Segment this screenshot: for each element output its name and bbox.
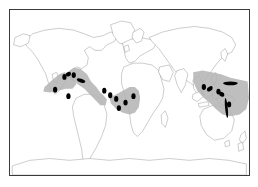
locality-point-3 <box>62 74 66 80</box>
locality-point-11 <box>202 84 206 90</box>
landmass-madagascar <box>161 111 168 128</box>
locality-point-4 <box>72 72 76 78</box>
locality-point-7 <box>114 96 118 102</box>
landmass-antarctica <box>13 159 247 176</box>
distribution-map-figure <box>0 0 258 187</box>
landmass-new-zealand <box>240 131 247 144</box>
locality-point-1 <box>53 87 57 93</box>
locality-point-2 <box>66 93 70 99</box>
locality-point-5 <box>102 88 106 94</box>
locality-point-12 <box>216 89 220 95</box>
locality-point-8 <box>117 105 121 111</box>
world-map <box>10 10 249 175</box>
landmass-india <box>175 69 188 93</box>
landmass-java <box>199 102 210 108</box>
locality-point-10 <box>131 93 135 99</box>
landmass-tasmania <box>225 140 230 146</box>
locality-point-9 <box>123 100 127 106</box>
filled-patch-north-pacific-bar <box>223 82 238 86</box>
locality-point-6 <box>108 92 112 98</box>
map-frame <box>9 9 250 176</box>
locality-point-13 <box>227 101 231 107</box>
